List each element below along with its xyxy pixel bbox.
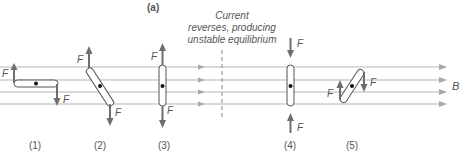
pivot-dot bbox=[98, 84, 102, 88]
position-label: (4) bbox=[284, 140, 296, 151]
annotation-line: unstable equilibrium bbox=[188, 34, 277, 45]
coil-position-1: F F bbox=[2, 63, 70, 106]
position-label: (3) bbox=[158, 140, 170, 151]
pivot-dot bbox=[34, 82, 38, 86]
force-label: F bbox=[327, 88, 334, 99]
pivot-dot bbox=[289, 84, 293, 88]
force-label: F bbox=[151, 51, 158, 62]
force-label: F bbox=[77, 54, 84, 65]
annotation-line: reverses, producing bbox=[188, 22, 276, 33]
field-arrowhead bbox=[198, 78, 205, 83]
force-arrow-up bbox=[86, 46, 93, 68]
force-arrow-up bbox=[287, 113, 294, 133]
field-arrowhead bbox=[198, 90, 205, 95]
pivot-dot bbox=[350, 84, 354, 88]
pivot-dot bbox=[161, 84, 165, 88]
force-label: F bbox=[297, 38, 304, 49]
force-label: F bbox=[63, 94, 70, 105]
force-arrow-down bbox=[287, 38, 294, 58]
force-arrow-up bbox=[159, 43, 166, 65]
field-arrowhead bbox=[198, 65, 205, 70]
position-label: (2) bbox=[94, 140, 106, 151]
annotation: Current reverses, producing unstable equ… bbox=[188, 10, 277, 45]
force-label: F bbox=[167, 105, 174, 116]
position-label: (1) bbox=[29, 140, 41, 151]
panel-label: (a) bbox=[147, 2, 159, 13]
force-arrow-down bbox=[159, 106, 166, 128]
position-label: (5) bbox=[346, 140, 358, 151]
force-label: F bbox=[2, 68, 9, 79]
coil-position-4: F F bbox=[287, 38, 304, 133]
coil-position-5: F F bbox=[327, 68, 377, 104]
coil-position-3: F F bbox=[151, 43, 174, 128]
force-arrow-down bbox=[107, 104, 114, 126]
annotation-line: Current bbox=[215, 10, 250, 21]
field-arrowhead bbox=[198, 102, 205, 107]
force-label: F bbox=[297, 122, 304, 133]
diagram-canvas: (a) Current reverses, producing unstable… bbox=[0, 0, 464, 153]
coil-position-2: F F bbox=[77, 46, 122, 126]
force-label: F bbox=[115, 107, 122, 118]
force-label: F bbox=[370, 77, 377, 88]
field-label: B bbox=[452, 80, 459, 92]
